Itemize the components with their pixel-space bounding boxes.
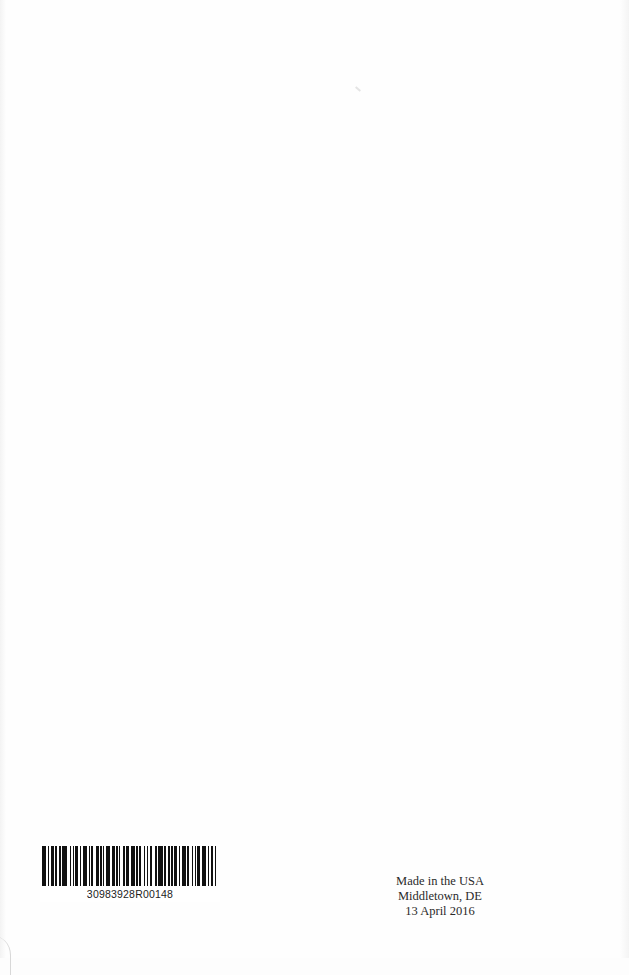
- barcode-bars: [42, 846, 218, 886]
- barcode-number: 30983928R00148: [40, 888, 220, 900]
- colophon-location: Middletown, DE: [360, 889, 520, 904]
- printer-colophon: Made in the USA Middletown, DE 13 April …: [360, 874, 520, 919]
- barcode-space: [216, 846, 217, 886]
- paper-speck: [355, 86, 361, 91]
- colophon-made-in: Made in the USA: [360, 874, 520, 889]
- colophon-date: 13 April 2016: [360, 904, 520, 919]
- barcode: 30983928R00148: [40, 844, 220, 902]
- page-corner-curl: [0, 935, 11, 975]
